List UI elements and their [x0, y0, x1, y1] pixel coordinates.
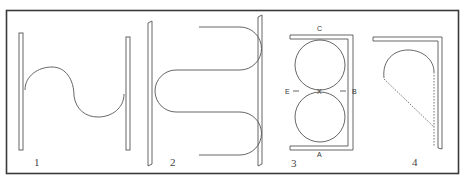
panel-1: 1: [19, 33, 130, 168]
panel-3: C A E B X 3: [285, 25, 357, 169]
panel-1-s-curve: [25, 67, 124, 117]
panel-4-diagonal-dashed-line: [384, 79, 434, 127]
panel-2: 2: [148, 15, 262, 168]
panel-2-left-bar: [148, 21, 152, 166]
panel-1-left-bar: [19, 33, 23, 150]
panel-3-lower-circle: [295, 92, 345, 142]
panel-4-l-bracket: [373, 37, 442, 149]
panel-3-point-c: C: [317, 25, 322, 32]
panel-1-right-bar: [126, 37, 130, 150]
panel-2-serpentine: [155, 27, 262, 155]
panel-1-label: 1: [34, 156, 40, 168]
diagram-figure: 1 2 C A E B X 3 4: [0, 0, 468, 182]
panel-3-point-b: B: [352, 88, 357, 95]
panel-4: 4: [373, 37, 442, 168]
panel-3-upper-circle: [295, 40, 345, 90]
outer-frame: [7, 11, 459, 174]
panel-4-arc: [384, 50, 434, 78]
panel-4-label: 4: [412, 156, 418, 168]
panel-3-point-x: X: [317, 88, 322, 95]
panel-3-point-e: E: [285, 88, 290, 95]
panel-3-point-a: A: [317, 151, 322, 158]
panel-3-label: 3: [291, 157, 297, 169]
panel-2-label: 2: [170, 156, 176, 168]
